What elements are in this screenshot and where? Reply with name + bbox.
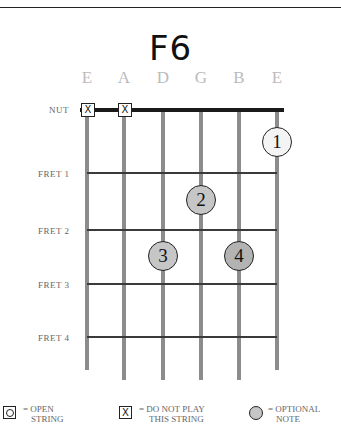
fret-label-2: FRET 2 [38,226,70,236]
legend-mute-line2: THIS STRING [139,414,205,424]
string-name-g: G [186,68,216,88]
mute-marker-low-e: X [81,103,95,117]
legend-open-line2: STRING [23,414,64,424]
fret-3 [87,283,277,285]
finger-1-marker: 1 [262,127,292,157]
legend-optional: = OPTIONAL NOTE [268,404,320,424]
string-name-low-e: E [72,68,102,88]
string-name-a: A [109,68,139,88]
legend-optional-line2: NOTE [268,414,320,424]
fret-2 [87,229,277,231]
fret-label-3: FRET 3 [38,280,70,290]
fret-label-1: FRET 1 [38,169,70,179]
string-name-d: D [148,68,178,88]
string-name-high-e: E [262,68,292,88]
legend-open: = OPEN STRING [23,404,64,424]
mute-marker-a: X [118,103,132,117]
legend-optional-line1: = OPTIONAL [268,404,320,414]
open-string-icon [3,406,16,419]
finger-4-marker: 4 [224,241,254,271]
mute-string-icon: X [119,406,132,419]
string-low-e [85,110,89,370]
nut [80,108,284,112]
string-name-b: B [224,68,254,88]
legend-mute: = DO NOT PLAY THIS STRING [139,404,205,424]
fret-4 [87,336,277,338]
finger-3-marker: 3 [148,241,178,271]
string-a [122,110,126,380]
top-rule [0,7,341,8]
fret-1 [87,172,277,174]
legend-mute-line1: = DO NOT PLAY [139,404,205,414]
optional-note-icon [249,406,263,420]
nut-label: NUT [49,105,69,115]
string-g [199,110,203,380]
finger-2-marker: 2 [186,185,216,215]
fret-label-4: FRET 4 [38,333,70,343]
chord-title: F6 [0,28,341,68]
legend-open-line1: = OPEN [23,404,64,414]
